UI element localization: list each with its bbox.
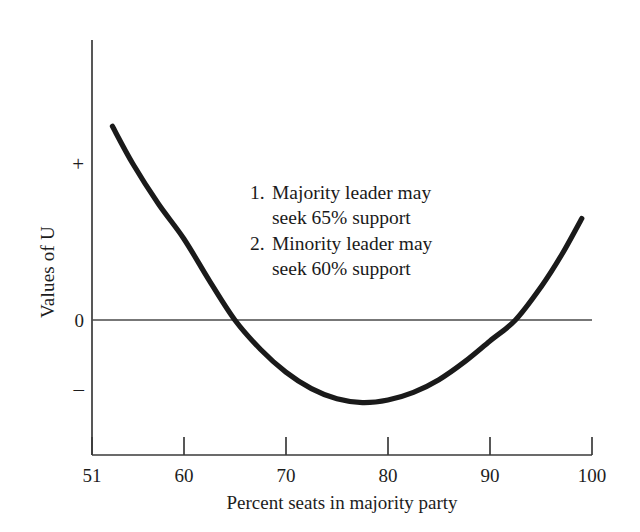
chart-figure: + 0 – 51 60 70 80 90 100 Percent seats i… [0, 0, 640, 532]
annotation-item-1: 1. Majority leader may [250, 180, 432, 205]
annotation-item-2-line1: Minority leader may [272, 233, 432, 254]
x-tick-label-51: 51 [83, 466, 102, 485]
y-tick-label-plus: + [62, 154, 84, 175]
x-axis-title: Percent seats in majority party [226, 493, 457, 512]
annotation-item-2-line2: seek 60% support [250, 256, 432, 281]
chart-annotation-list: 1. Majority leader may seek 65% support … [250, 180, 432, 281]
y-axis-title: Values of U [38, 226, 57, 318]
annotation-item-1-number: 1. [250, 180, 272, 205]
x-tick-label-100: 100 [578, 466, 607, 485]
annotation-item-1-line1: Majority leader may [272, 182, 431, 203]
annotation-item-1-line2: seek 65% support [250, 205, 432, 230]
annotation-item-2-number: 2. [250, 231, 272, 256]
annotation-item-2: 2. Minority leader may [250, 231, 432, 256]
x-tick-label-70: 70 [277, 466, 296, 485]
y-tick-label-minus: – [62, 379, 84, 400]
x-axis-ticks [92, 437, 592, 455]
x-tick-label-80: 80 [379, 466, 398, 485]
x-tick-label-60: 60 [175, 466, 194, 485]
y-tick-label-zero: 0 [58, 311, 84, 330]
x-tick-label-90: 90 [481, 466, 500, 485]
